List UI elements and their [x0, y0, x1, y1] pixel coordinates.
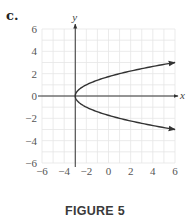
panel-label: c.: [6, 8, 18, 23]
curve-lower-branch: [75, 96, 175, 130]
y-tick-label: 4: [32, 45, 38, 57]
y-tick-label: −4: [25, 135, 37, 147]
figure-caption: FIGURE 5: [65, 204, 125, 218]
x-tick-label: 4: [150, 165, 156, 177]
x-axis-label: x: [179, 89, 185, 101]
x-tick-label: 0: [106, 165, 112, 177]
x-tick-label: −4: [58, 165, 70, 177]
x-tick-label: 6: [172, 165, 178, 177]
y-tick-label: −6: [25, 157, 37, 169]
tick-labels: −6−4−20246−6−4−20246: [25, 23, 178, 177]
y-tick-label: 0: [32, 90, 38, 102]
axes: [38, 24, 178, 167]
y-tick-label: −2: [25, 112, 37, 124]
y-axis-label: y: [71, 11, 77, 23]
y-tick-label: 6: [32, 23, 38, 35]
curve-upper-branch: [75, 63, 175, 97]
x-tick-label: −6: [36, 165, 48, 177]
figure: c. −6−4−20246−6−4−20246 x y FIGURE 5: [0, 0, 188, 219]
x-tick-label: 2: [128, 165, 134, 177]
y-tick-label: 2: [32, 68, 38, 80]
x-tick-label: −2: [80, 165, 92, 177]
